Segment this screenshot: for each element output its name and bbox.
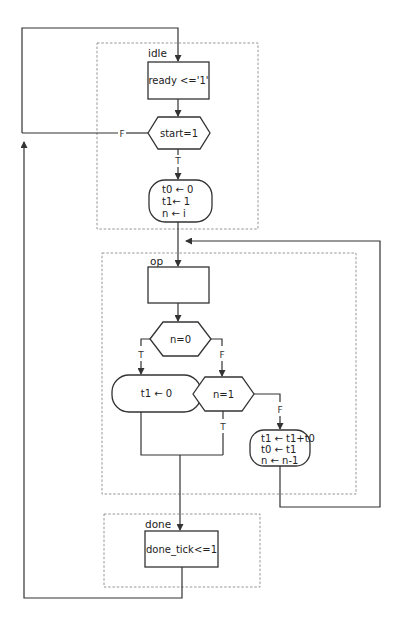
n1-false-line <box>254 394 280 402</box>
n0-false-label: F <box>219 350 224 360</box>
done-state-label: done <box>145 518 171 530</box>
merge-line <box>141 412 223 455</box>
t1-reset-text: t1 ← 0 <box>141 388 172 399</box>
ready-action-text: ready <='1' <box>148 75 208 86</box>
n-equals-0-text: n=0 <box>170 334 191 345</box>
init-output-line-1: t0 ← 0 <box>162 184 193 195</box>
start-decision-text: start=1 <box>160 128 198 139</box>
op-action-box <box>148 267 209 303</box>
n0-false-line <box>211 339 222 346</box>
n-equals-1-text: n=1 <box>213 389 234 400</box>
fib-update-line-2: t0 ← t1 <box>261 444 296 455</box>
n0-true-label: T <box>137 350 144 360</box>
init-output-line-3: n ← i <box>162 208 186 219</box>
n1-false-label: F <box>277 405 282 415</box>
start-true-label: T <box>174 156 181 166</box>
op-state-label: op <box>150 255 163 267</box>
loop-back-to-op-arrow <box>186 241 380 507</box>
idle-state-label: idle <box>148 47 167 59</box>
asmd-diagram: idle ready <='1' start=1 F T t0 ← 0 t1← … <box>0 0 401 620</box>
fib-update-line-1: t1 ← t1+t0 <box>261 433 315 444</box>
fib-update-line-3: n ← n-1 <box>261 455 298 466</box>
done-tick-text: done_tick<=1 <box>146 544 217 556</box>
op-state-block <box>102 253 356 494</box>
start-false-label: F <box>119 129 124 139</box>
init-output-line-2: t1← 1 <box>162 196 190 207</box>
n1-true-label: T <box>219 422 226 432</box>
n0-true-line <box>141 339 150 346</box>
